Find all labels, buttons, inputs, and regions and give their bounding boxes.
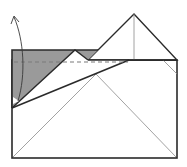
- top-triangle-flap: [88, 14, 177, 60]
- origami-diagram: [0, 0, 187, 167]
- diagram-canvas: [0, 0, 187, 167]
